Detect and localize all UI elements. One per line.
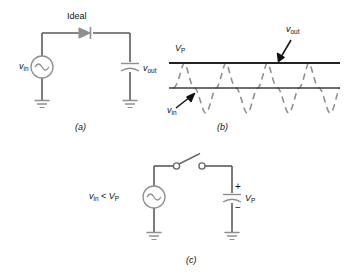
vout-label-panel-a: vout: [143, 64, 157, 73]
vin-c-rel: <: [99, 191, 109, 201]
annotation-arrow-vout: [278, 40, 292, 62]
vp-label-c-sub: P: [251, 197, 255, 204]
diode-label: Ideal: [67, 12, 87, 21]
ac-source-panel-a: [31, 56, 53, 78]
vin-label-a-v: v: [19, 61, 24, 71]
ac-source-panel-c: [143, 186, 165, 208]
capacitor-plus-sign: +: [235, 182, 241, 192]
ground-c-left: [147, 233, 161, 240]
capacitor-minus-sign: −: [235, 203, 241, 213]
vp-label-b-sub: P: [181, 47, 185, 54]
vin-c-sub: in: [94, 195, 99, 202]
vp-c-v: V: [109, 191, 115, 201]
ground-left: [35, 101, 49, 108]
ground-c-right: [225, 233, 239, 240]
vout-label-a-sub: out: [148, 67, 157, 74]
rectifier-figure: Ideal vin vout (a) VP vout vin (b) vin <…: [0, 0, 357, 274]
vp-label-panel-b: VP: [175, 44, 185, 53]
vout-label-b-sub: out: [291, 28, 300, 35]
vin-label-a-sub: in: [24, 65, 29, 72]
vout-label-b-v: v: [286, 24, 291, 34]
vout-label-a-v: v: [143, 63, 148, 73]
ground-right: [123, 101, 137, 108]
annotation-arrow-vin: [176, 94, 195, 109]
vin-c-v: v: [89, 191, 94, 201]
panel-a-id: (a): [75, 122, 86, 132]
panel-c-id: (c): [186, 255, 197, 265]
vout-label-panel-b: vout: [286, 25, 300, 34]
capacitor-panel-c: [223, 195, 241, 203]
diode-ideal: [79, 27, 91, 39]
panel-b-id: (b): [217, 122, 228, 132]
ground-symbols-panel-c: [147, 233, 239, 240]
vin-label-panel-b: vin: [167, 106, 177, 115]
vp-label-panel-c: VP: [245, 194, 255, 203]
vp-c-sub: P: [115, 195, 119, 202]
cap-bottom-plate-curved: [121, 68, 139, 71]
panel-c-circuit: [154, 166, 232, 232]
ground-symbols-panel-a: [35, 101, 137, 108]
figure-vector-canvas: [0, 0, 357, 274]
switch-open[interactable]: [173, 154, 205, 170]
vin-label-b-sub: in: [172, 109, 177, 116]
vin-label-b-v: v: [167, 105, 172, 115]
panel-a-circuit: [42, 33, 130, 100]
capacitor-panel-a: [121, 64, 139, 72]
vin-lt-vp-label: vin < VP: [89, 192, 119, 201]
vin-label-panel-a: vin: [19, 62, 29, 71]
